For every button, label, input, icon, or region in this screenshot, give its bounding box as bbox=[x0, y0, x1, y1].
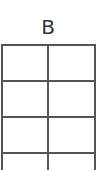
grid-cell[interactable] bbox=[49, 46, 94, 80]
grid-cell[interactable] bbox=[49, 82, 94, 116]
column-header-label: B bbox=[0, 16, 96, 38]
grid-line-vertical bbox=[94, 44, 96, 170]
grid-cell[interactable] bbox=[3, 46, 48, 80]
grid-cell[interactable] bbox=[49, 154, 94, 170]
grid-cell[interactable] bbox=[3, 118, 48, 152]
grid-cell[interactable] bbox=[3, 154, 48, 170]
grid-cell[interactable] bbox=[3, 82, 48, 116]
grid-cell[interactable] bbox=[49, 118, 94, 152]
